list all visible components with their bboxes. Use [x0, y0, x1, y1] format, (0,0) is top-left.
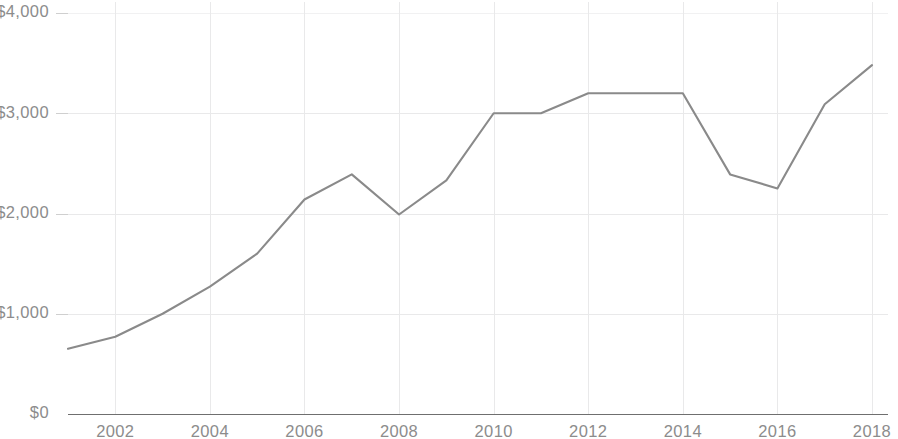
x-axis-tick-label: 2002 — [96, 422, 134, 439]
series-group — [68, 65, 872, 349]
series-line-0 — [68, 65, 872, 349]
x-axis-tick-label: 2014 — [664, 422, 702, 439]
x-axis-tick-label: 2012 — [569, 422, 607, 439]
y-axis-tick-label: $1,000 — [0, 303, 49, 321]
y-axis-tick-label: $0 — [30, 403, 49, 421]
x-axis-tick-labels: 200220042006200820102012201420162018 — [96, 422, 891, 439]
y-axis-tick-label: $2,000 — [0, 203, 49, 221]
x-axis-tick-label: 2004 — [191, 422, 229, 439]
x-axis-tick-label: 2006 — [285, 422, 323, 439]
y-axis-tick-labels: $4,000$3,000$2,000$1,000$0 — [0, 2, 49, 421]
chart-canvas: $4,000$3,000$2,000$1,000$0 2002200420062… — [0, 0, 898, 439]
vertical-gridlines — [116, 2, 873, 414]
x-axis-tick-label: 2018 — [853, 422, 891, 439]
y-axis-tick-label: $3,000 — [0, 103, 49, 121]
y-axis-tick-label: $4,000 — [0, 2, 49, 20]
line-chart: $4,000$3,000$2,000$1,000$0 2002200420062… — [0, 0, 898, 439]
x-axis-tick-label: 2016 — [758, 422, 796, 439]
y-axis-tick-stubs — [56, 14, 68, 315]
x-axis-tick-label: 2010 — [474, 422, 512, 439]
horizontal-gridlines — [68, 14, 888, 315]
x-axis-tick-label: 2008 — [380, 422, 418, 439]
